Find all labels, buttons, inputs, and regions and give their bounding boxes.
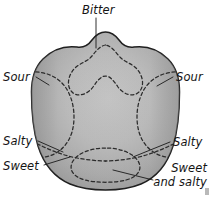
label-sour-left: Sour	[3, 70, 31, 84]
label-bitter: Bitter	[82, 3, 116, 17]
label-sweet-and-salty-line1: Sweet	[171, 161, 207, 175]
label-salty-left: Salty	[3, 134, 32, 148]
label-sweet-and-salty-line2: and salty	[153, 175, 207, 189]
tongue-taste-map-figure: Bitter Sour Sour Salty Salty Sweet Sweet…	[0, 0, 211, 197]
label-sweet-left: Sweet	[3, 159, 39, 173]
label-sour-right: Sour	[176, 70, 204, 84]
tongue-body	[31, 31, 180, 191]
tongue-edge-shading	[31, 31, 180, 191]
corner-artifact-mark	[205, 188, 209, 195]
label-salty-right: Salty	[173, 135, 202, 149]
